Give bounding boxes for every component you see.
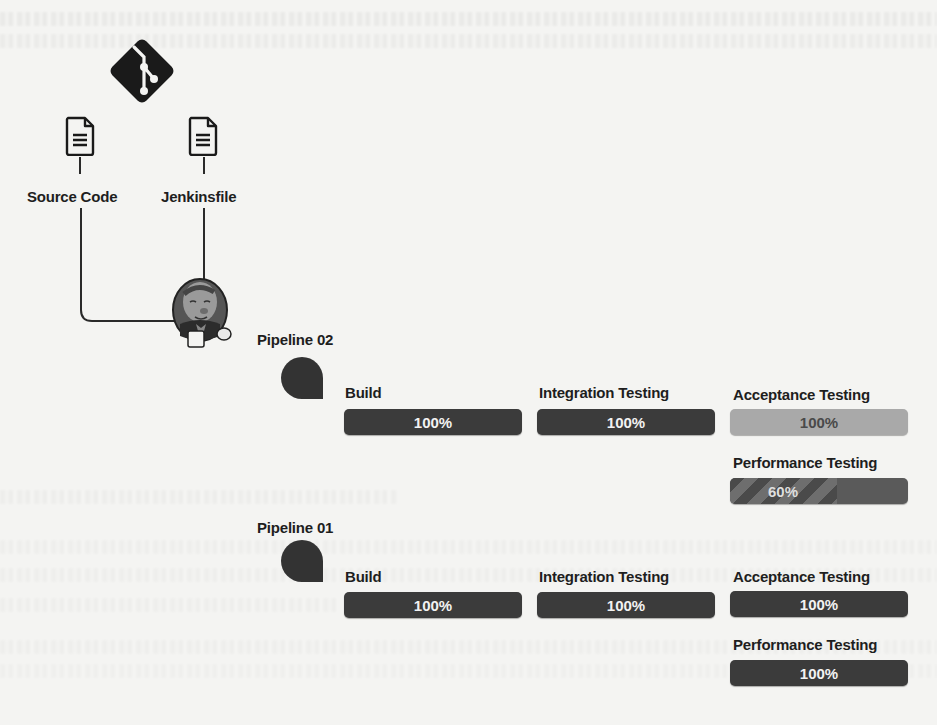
- connector-line: [203, 157, 205, 174]
- stage-label: Performance Testing: [733, 636, 877, 653]
- stage-progress-bar[interactable]: 60%: [730, 478, 908, 504]
- connector-line: [79, 157, 81, 174]
- jenkinsfile-label: Jenkinsfile: [161, 188, 236, 205]
- pipeline-marker-icon: [281, 540, 323, 582]
- pipeline-name: Pipeline 02: [257, 331, 333, 348]
- git-icon: [104, 33, 180, 109]
- stage-progress-bar[interactable]: 100%: [730, 409, 908, 435]
- document-icon: [65, 116, 95, 156]
- stage-progress-bar[interactable]: 100%: [537, 409, 715, 435]
- stage-progress-value: 100%: [414, 414, 452, 431]
- source-code-label: Source Code: [27, 188, 117, 205]
- background-texture: [0, 540, 937, 554]
- stage-progress-bar[interactable]: 100%: [537, 592, 715, 618]
- stage-progress-value: 100%: [800, 414, 838, 431]
- stage-label: Acceptance Testing: [733, 568, 870, 585]
- stage-label: Build: [345, 384, 382, 401]
- stage-progress-bar[interactable]: 100%: [344, 592, 522, 618]
- background-texture: [0, 12, 937, 26]
- stage-progress-value: 100%: [414, 597, 452, 614]
- stage-label: Performance Testing: [733, 454, 877, 471]
- stage-label: Build: [345, 568, 382, 585]
- stage-progress-value: 100%: [800, 665, 838, 682]
- stage-progress-value: 100%: [800, 596, 838, 613]
- connector-line: [203, 208, 205, 283]
- jenkins-icon: [168, 276, 238, 348]
- stage-progress-bar[interactable]: 100%: [730, 591, 908, 617]
- pipeline-name: Pipeline 01: [257, 519, 333, 536]
- stage-label: Acceptance Testing: [733, 386, 870, 403]
- stage-progress-value: 60%: [768, 483, 798, 500]
- document-icon: [188, 116, 218, 156]
- background-texture: [0, 490, 397, 504]
- stage-progress-value: 100%: [607, 414, 645, 431]
- stage-progress-value: 100%: [607, 597, 645, 614]
- connector-line: [80, 208, 82, 311]
- stage-label: Integration Testing: [539, 568, 669, 585]
- stage-progress-bar[interactable]: 100%: [730, 660, 908, 686]
- stage-progress-bar[interactable]: 100%: [344, 409, 522, 435]
- pipeline-marker-icon: [281, 357, 323, 399]
- background-texture: [0, 598, 337, 612]
- stage-label: Integration Testing: [539, 384, 669, 401]
